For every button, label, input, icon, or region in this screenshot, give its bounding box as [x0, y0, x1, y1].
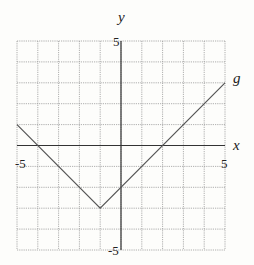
axes [17, 41, 225, 250]
y-tick-max: 5 [113, 35, 120, 48]
series-label-g: g [233, 71, 241, 86]
x-tick-max: 5 [221, 157, 228, 170]
y-axis-label: y [118, 10, 125, 25]
y-tick-min: -5 [108, 244, 119, 257]
x-axis-label: x [233, 138, 240, 153]
graph-of-g [0, 0, 254, 265]
x-tick-min: -5 [15, 157, 26, 170]
